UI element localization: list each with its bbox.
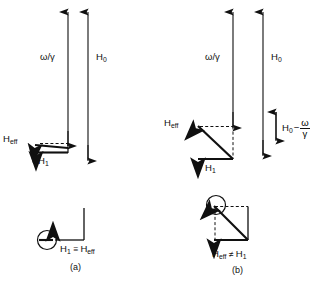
panel-b-omega-gamma-fraction: ω γ (300, 118, 309, 138)
panel-b (198, 12, 276, 240)
panel-a-omega-gamma-label: ω/γ (40, 52, 55, 62)
panel-b-heff-vector (198, 126, 233, 159)
panel-b-h1-label: H1 (205, 163, 216, 173)
inset-b-relation-label: Heff ≠H1 (212, 249, 246, 259)
panel-b-minus-sign: − (293, 123, 301, 133)
panel-a-h0-label: H0 (96, 52, 107, 62)
panel-a (35, 12, 88, 250)
panel-a-h1-label: H1 (38, 156, 49, 166)
panel-b-heff-label: Heff (164, 118, 178, 128)
panel-b-difference-label: H0 − ω γ (282, 118, 310, 138)
panel-a-heff-label: Heff (3, 134, 17, 144)
inset-b-circle (207, 196, 226, 215)
panel-a-tag: (a) (70, 262, 81, 272)
panel-b-inset (207, 196, 249, 241)
panel-b-omega-gamma-label: ω/γ (205, 52, 220, 62)
vector-diagram-figure (0, 0, 315, 283)
inset-a-relation-label: H1 ≡Heff (60, 244, 95, 254)
inset-b-heff-arrow (214, 206, 248, 240)
panel-b-tag: (b) (232, 265, 243, 275)
panel-b-h0-label: H0 (271, 52, 282, 62)
panel-a-heff-vector (35, 145, 68, 148)
